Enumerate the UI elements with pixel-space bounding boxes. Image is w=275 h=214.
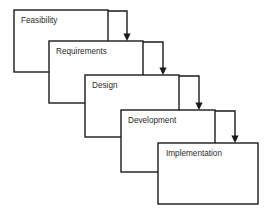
connector-requirements-to-design: [143, 42, 167, 75]
arrowhead-icon: [195, 103, 202, 111]
connector-feasibility-to-requirements: [108, 11, 131, 41]
connector-development-to-implementation: [215, 111, 239, 143]
waterfall-diagram: Feasibility Requirements Design Developm…: [0, 0, 275, 214]
stage-label-implementation: Implementation: [166, 149, 222, 158]
connector-line: [179, 76, 199, 104]
arrowhead-icon: [159, 68, 166, 76]
stage-label-requirements: Requirements: [56, 47, 107, 56]
arrowhead-icon: [231, 136, 238, 144]
connector-line: [215, 111, 235, 137]
connector-line: [108, 11, 127, 35]
stage-label-development: Development: [128, 116, 177, 125]
waterfall-diagram-canvas: Feasibility Requirements Design Developm…: [0, 0, 275, 214]
stage-group-implementation[interactable]: Implementation: [158, 143, 258, 204]
connector-design-to-development: [179, 76, 203, 110]
connector-line: [143, 42, 163, 69]
stage-label-design: Design: [92, 81, 118, 90]
arrowhead-icon: [123, 34, 130, 42]
stage-label-feasibility: Feasibility: [21, 16, 58, 25]
